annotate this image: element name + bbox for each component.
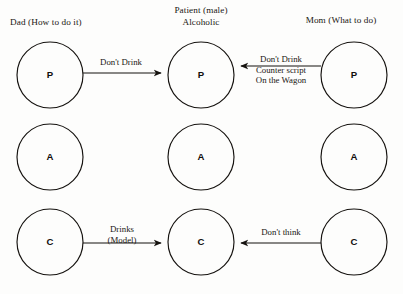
node-label-mom-c: C — [342, 236, 366, 247]
diagram-vector-layer — [0, 0, 403, 294]
node-label-dad-c: C — [38, 236, 62, 247]
node-label-dad-a: A — [38, 151, 62, 162]
arrow-label-mom-c-to-patient-c: Don't think — [240, 227, 322, 238]
arrow-label-dad-p-to-patient-p: Don't Drink — [78, 57, 164, 68]
arrow-label-mom-p-to-patient-p: Don't Drink Counter script On the Wagon — [239, 54, 323, 86]
column-header-mom: Mom (What to do) — [282, 15, 400, 27]
node-label-mom-p: P — [342, 69, 366, 80]
node-label-mom-a: A — [342, 151, 366, 162]
column-header-patient: Patient (male) Alcoholic — [140, 5, 262, 28]
node-label-patient-c: C — [189, 236, 213, 247]
node-label-dad-p: P — [38, 69, 62, 80]
column-header-dad: Dad (How to do it) — [2, 17, 148, 29]
diagram-canvas: Dad (How to do it) Patient (male) Alcoho… — [0, 0, 403, 294]
node-label-patient-p: P — [189, 69, 213, 80]
arrow-label-dad-c-to-patient-c: Drinks (Model) — [80, 224, 164, 245]
node-label-patient-a: A — [189, 151, 213, 162]
